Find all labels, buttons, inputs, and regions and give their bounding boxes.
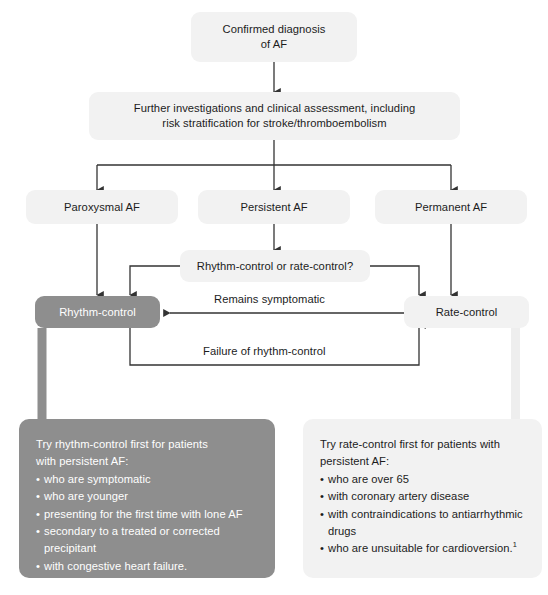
node-rhythm-control: Rhythm-control <box>35 296 160 328</box>
edge-label-remains-symptomatic: Remains symptomatic <box>214 292 325 306</box>
panel-rhythm-control-recommendations: Try rhythm-control first for patients wi… <box>19 419 275 578</box>
list-item: who are unsuitable for cardioversion.1 <box>320 540 526 557</box>
edge-decision-to-rhythm <box>130 266 180 295</box>
node-rate-control: Rate-control <box>404 296 529 328</box>
footnote-marker: 1 <box>513 541 517 550</box>
af-management-flowchart: Confirmed diagnosis of AF Further invest… <box>0 0 548 595</box>
node-decision-rhythm-or-rate: Rhythm-control or rate-control? <box>180 250 370 282</box>
list-item: secondary to a treated or corrected <box>36 523 259 540</box>
node-permanent-af: Permanent AF <box>375 190 527 224</box>
node-further-investigations: Further investigations and clinical asse… <box>89 92 460 140</box>
paroxysmal-af-label: Paroxysmal AF <box>64 200 140 215</box>
rhythm-control-label: Rhythm-control <box>59 305 136 320</box>
list-item-continuation: precipitant <box>36 540 259 557</box>
list-item-continuation: drugs <box>320 523 526 540</box>
list-item: who are over 65 <box>320 471 526 488</box>
rate-control-label: Rate-control <box>436 305 498 320</box>
node-persistent-af: Persistent AF <box>198 190 350 224</box>
edge-label-failure-of-rhythm-control: Failure of rhythm-control <box>203 344 326 358</box>
rhythm-control-thick-connector <box>38 328 47 424</box>
further-investigations-line1: Further investigations and clinical asse… <box>134 101 415 116</box>
rate-panel-lead-line2: persistent AF: <box>320 453 526 470</box>
list-item: who are symptomatic <box>36 471 259 488</box>
rate-panel-lead-line1: Try rate-control first for patients with <box>320 436 526 453</box>
list-item: with congestive heart failure. <box>36 558 259 575</box>
node-paroxysmal-af: Paroxysmal AF <box>26 190 178 224</box>
confirmed-diagnosis-line1: Confirmed diagnosis <box>223 22 326 37</box>
list-item: with coronary artery disease <box>320 488 526 505</box>
confirmed-diagnosis-line2: of AF <box>223 37 326 52</box>
rhythm-panel-lead-line1: Try rhythm-control first for patients <box>36 436 259 453</box>
rate-panel-list: who are over 65 with coronary artery dis… <box>320 471 526 558</box>
further-investigations-line2: risk stratification for stroke/thromboem… <box>134 116 415 131</box>
list-item: presenting for the first time with lone … <box>36 506 259 523</box>
list-item: with contraindications to antiarrhythmic <box>320 506 526 523</box>
node-confirmed-diagnosis: Confirmed diagnosis of AF <box>191 12 357 62</box>
persistent-af-label: Persistent AF <box>240 200 307 215</box>
rate-control-light-connector <box>511 328 520 424</box>
panel-rate-control-recommendations: Try rate-control first for patients with… <box>303 419 542 578</box>
decision-label: Rhythm-control or rate-control? <box>197 259 353 274</box>
edge-decision-to-rate <box>370 266 419 295</box>
permanent-af-label: Permanent AF <box>415 200 487 215</box>
rhythm-panel-lead-line2: with persistent AF: <box>36 453 259 470</box>
rhythm-panel-list: who are symptomatic who are younger pres… <box>36 471 259 575</box>
list-item: who are younger <box>36 488 259 505</box>
